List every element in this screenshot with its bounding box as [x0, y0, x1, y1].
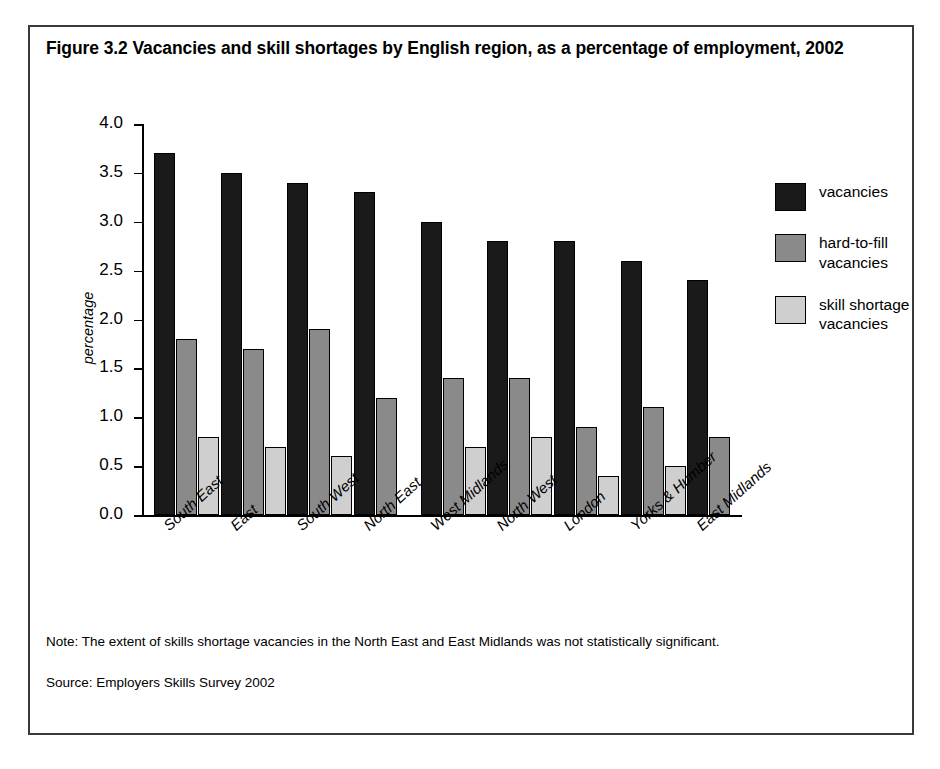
- y-axis-tick-label: 1.0: [99, 406, 123, 426]
- y-axis-tick: 1.5: [134, 368, 142, 370]
- y-axis-tick: 3.5: [134, 173, 142, 175]
- legend-item: vacancies: [775, 182, 940, 211]
- legend-label: vacancies: [819, 182, 888, 202]
- bar: [221, 173, 242, 515]
- y-axis-tick-label: 3.0: [99, 211, 123, 231]
- legend-swatch: [775, 183, 806, 211]
- y-axis-tick-label: 1.5: [99, 357, 123, 377]
- bar: [287, 183, 308, 515]
- bar: [421, 222, 442, 515]
- y-axis-tick: 0.5: [134, 466, 142, 468]
- chart-plot-area: percentage 0.00.51.01.52.02.53.03.54.0 S…: [142, 124, 742, 515]
- y-axis-tick: 1.0: [134, 417, 142, 419]
- y-axis-tick: 2.0: [134, 320, 142, 322]
- y-axis-tick-label: 0.0: [99, 504, 123, 524]
- bar: [243, 349, 264, 515]
- figure-frame: Figure 3.2 Vacancies and skill shortages…: [28, 25, 914, 735]
- y-axis-tick: 0.0: [134, 515, 142, 517]
- legend-label: skill shortage vacancies: [819, 295, 940, 335]
- bar: [554, 241, 575, 515]
- y-axis-tick-label: 2.5: [99, 260, 123, 280]
- y-axis-tick: 4.0: [134, 124, 142, 126]
- bar: [265, 447, 286, 515]
- figure-title: Figure 3.2 Vacancies and skill shortages…: [46, 37, 886, 60]
- legend-item: hard-to-fill vacancies: [775, 233, 940, 273]
- y-axis-tick-label: 3.5: [99, 162, 123, 182]
- y-axis-tick-label: 4.0: [99, 113, 123, 133]
- y-axis-tick: 2.5: [134, 271, 142, 273]
- legend-swatch: [775, 296, 806, 324]
- y-axis-line: [142, 124, 144, 515]
- chart-legend: vacancieshard-to-fill vacanciesskill sho…: [775, 182, 940, 356]
- figure-source: Source: Employers Skills Survey 2002: [46, 675, 896, 690]
- bar: [354, 192, 375, 515]
- legend-swatch: [775, 234, 806, 262]
- legend-label: hard-to-fill vacancies: [819, 233, 940, 273]
- legend-item: skill shortage vacancies: [775, 295, 940, 335]
- y-axis-tick: 3.0: [134, 222, 142, 224]
- y-axis-title: percentage: [80, 292, 96, 365]
- figure-note: Note: The extent of skills shortage vaca…: [46, 634, 896, 649]
- bar: [309, 329, 330, 515]
- bar: [176, 339, 197, 515]
- y-axis-tick-label: 2.0: [99, 309, 123, 329]
- y-axis-tick-label: 0.5: [99, 455, 123, 475]
- bar: [154, 153, 175, 515]
- bar: [621, 261, 642, 515]
